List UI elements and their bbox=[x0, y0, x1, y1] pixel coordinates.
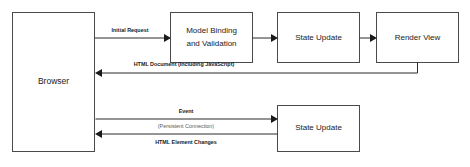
browser-label: Browser bbox=[38, 76, 69, 86]
state-update-bottom-label: State Update bbox=[295, 123, 342, 132]
flow-diagram: Browser Model Binding and Validation Sta… bbox=[0, 0, 470, 167]
event-arrowhead bbox=[271, 115, 278, 123]
diagram-canvas: Browser Model Binding and Validation Sta… bbox=[0, 0, 470, 167]
state-to-render-arrowhead bbox=[370, 34, 377, 42]
edge-html-document: HTML Document (Including JavaScript) bbox=[95, 61, 418, 77]
render-view-label: Render View bbox=[395, 33, 441, 42]
node-state-update-top: State Update bbox=[278, 13, 360, 63]
event-label: Event bbox=[179, 108, 194, 114]
edge-event: Event bbox=[96, 108, 279, 123]
node-browser: Browser bbox=[13, 13, 95, 152]
state-update-top-label: State Update bbox=[295, 33, 342, 42]
persistent-connection-label: (Persistent Connection) bbox=[158, 123, 215, 129]
edge-initial-request: Initial Request bbox=[95, 27, 171, 42]
html-document-label: HTML Document (Including JavaScript) bbox=[134, 61, 235, 67]
node-state-update-bottom: State Update bbox=[278, 106, 360, 152]
html-element-changes-arrowhead bbox=[95, 130, 102, 138]
edge-state-to-render bbox=[360, 34, 378, 42]
initial-request-arrowhead bbox=[164, 34, 171, 42]
model-binding-label-line1: Model Binding bbox=[186, 26, 237, 35]
edge-html-element-changes: HTML Element Changes bbox=[95, 130, 278, 145]
initial-request-label: Initial Request bbox=[112, 27, 149, 33]
model-binding-box bbox=[171, 13, 253, 63]
model-binding-label-line2: and Validation bbox=[186, 39, 236, 48]
edge-persistent-connection: (Persistent Connection) bbox=[158, 123, 215, 129]
edge-binding-to-state bbox=[253, 34, 279, 42]
node-render-view: Render View bbox=[377, 13, 459, 63]
node-model-binding: Model Binding and Validation bbox=[171, 13, 253, 63]
html-element-changes-label: HTML Element Changes bbox=[155, 139, 217, 145]
html-document-arrowhead bbox=[95, 69, 102, 77]
binding-to-state-arrowhead bbox=[271, 34, 278, 42]
